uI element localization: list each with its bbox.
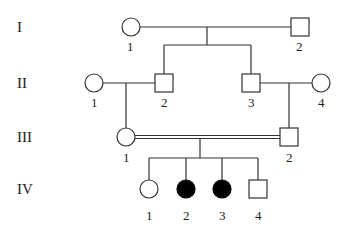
female-unaffected-II4 xyxy=(312,74,330,92)
male-unaffected-II3 xyxy=(242,74,260,92)
generation-label-IV: IV xyxy=(17,181,33,197)
female-affected-IV3 xyxy=(213,180,231,198)
individual-label-III2: 2 xyxy=(286,150,293,165)
individual-label-IV1: 1 xyxy=(146,208,153,223)
individual-label-I2: 2 xyxy=(296,39,303,54)
individual-label-II4: 4 xyxy=(318,95,325,110)
individual-label-IV4: 4 xyxy=(255,208,262,223)
female-unaffected-II1 xyxy=(85,74,103,92)
generation-label-II: II xyxy=(17,75,27,91)
individual-label-IV3: 3 xyxy=(219,208,226,223)
female-unaffected-IV1 xyxy=(140,180,158,198)
individual-label-IV2: 2 xyxy=(183,208,190,223)
generation-label-I: I xyxy=(17,19,22,35)
female-unaffected-III1 xyxy=(117,128,135,146)
female-affected-IV2 xyxy=(177,180,195,198)
male-unaffected-I2 xyxy=(291,18,309,36)
pedigree-chart: I II III IV 1 2 1 2 3 4 1 2 1 2 3 4 xyxy=(0,0,341,232)
individual-label-III1: 1 xyxy=(123,150,130,165)
male-unaffected-IV4 xyxy=(249,180,267,198)
generation-label-III: III xyxy=(17,129,32,145)
individual-label-I1: 1 xyxy=(127,39,134,54)
individual-label-II3: 3 xyxy=(248,95,255,110)
individual-label-II1: 1 xyxy=(91,95,98,110)
female-unaffected-I1 xyxy=(122,18,140,36)
male-unaffected-III2 xyxy=(280,128,298,146)
individual-label-II2: 2 xyxy=(161,95,168,110)
male-unaffected-II2 xyxy=(155,74,173,92)
